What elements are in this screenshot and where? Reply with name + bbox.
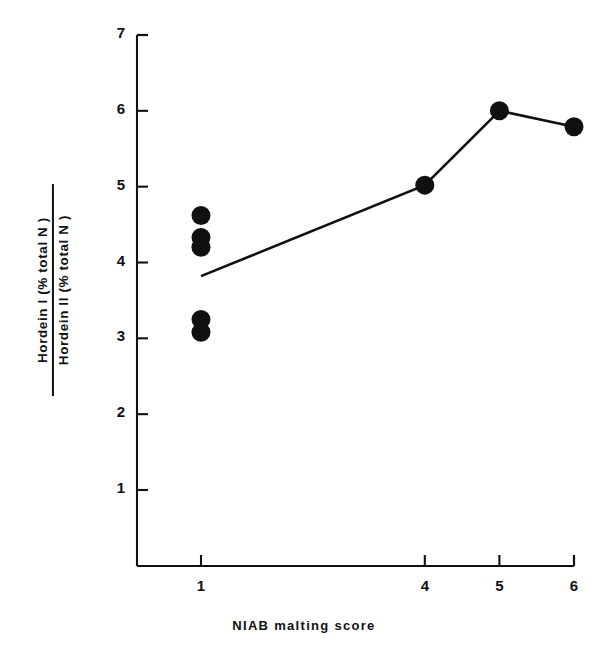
y-tick-label: 3 (99, 327, 125, 344)
x-tick-label: 6 (561, 577, 587, 594)
plot-area (0, 0, 608, 663)
data-point-marker (192, 323, 211, 342)
data-point-markers (192, 101, 584, 341)
trend-line (201, 111, 574, 276)
data-point-marker (565, 117, 584, 136)
y-tick-label: 2 (99, 403, 125, 420)
data-line-series (201, 111, 574, 276)
y-tick-label: 1 (99, 479, 125, 496)
x-tick-label: 1 (188, 577, 214, 594)
chart-figure: Hordein I (% total N ) Hordein II (% tot… (0, 0, 608, 663)
data-point-marker (192, 238, 211, 257)
x-tick-label: 5 (486, 577, 512, 594)
data-point-marker (415, 176, 434, 195)
y-tick-label: 5 (99, 176, 125, 193)
y-axis-ticks (137, 35, 148, 490)
x-axis-ticks (201, 555, 574, 566)
x-tick-label: 4 (412, 577, 438, 594)
data-point-marker (192, 206, 211, 225)
data-point-marker (490, 101, 509, 120)
y-tick-label: 7 (99, 24, 125, 41)
axis-lines (137, 35, 574, 566)
y-tick-label: 6 (99, 100, 125, 117)
y-tick-label: 4 (99, 252, 125, 269)
